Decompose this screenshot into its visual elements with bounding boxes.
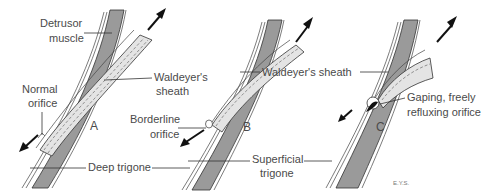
arrow-down-icon: [186, 130, 204, 142]
label-borderline-orifice-line2: orifice: [150, 128, 179, 140]
label-waldeyer-line1: Waldeyer's: [154, 71, 208, 83]
label-superficial-trigone-line1: Superficial: [252, 153, 303, 165]
arrow-down-icon: [26, 135, 38, 146]
arrow-up-icon: [437, 25, 452, 42]
ureterovesical-junction-diagram: Detrusor muscle Normal orifice Waldeyer'…: [0, 0, 497, 193]
panel-c: Gaping, freely refluxing orifice C E.Y.S…: [326, 16, 481, 188]
label-deep-trigone: Deep trigone: [88, 161, 151, 173]
label-waldeyer-b: Waldeyer's sheath: [262, 66, 352, 78]
label-superficial-trigone-line2: trigone: [260, 167, 294, 179]
waldeyers-sheath: [40, 35, 152, 156]
arrow-down-icon: [343, 110, 352, 118]
arrow-up-icon: [296, 26, 308, 42]
label-gaping-orifice-line2: refluxing orifice: [407, 106, 481, 118]
label-waldeyer-line2: sheath: [156, 85, 189, 97]
panel-a: Detrusor muscle Normal orifice Waldeyer'…: [19, 8, 208, 188]
label-detrusor-line2: muscle: [49, 32, 84, 44]
label-detrusor-line1: Detrusor: [40, 17, 83, 29]
panel-letter-b: B: [243, 120, 251, 134]
panel-letter-c: C: [376, 120, 385, 134]
borderline-orifice-shape: [206, 120, 213, 128]
label-gaping-orifice-line1: Gaping, freely: [407, 91, 476, 103]
label-normal-orifice-line1: Normal: [22, 83, 57, 95]
arrow-up-icon: [148, 16, 160, 30]
panel-letter-a: A: [90, 119, 98, 133]
label-normal-orifice-line2: orifice: [28, 97, 57, 109]
artist-signature: E.Y.S.: [393, 180, 410, 186]
label-borderline-orifice-line1: Borderline: [130, 113, 180, 125]
